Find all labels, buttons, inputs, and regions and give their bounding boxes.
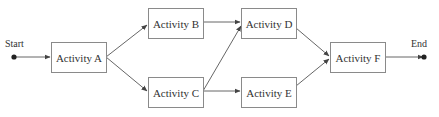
activity-b-label: Activity B xyxy=(153,18,199,30)
activity-d-node[interactable]: Activity D xyxy=(241,8,297,39)
activity-f-node[interactable]: Activity F xyxy=(330,42,386,73)
activity-e-label: Activity E xyxy=(246,87,292,99)
activity-b-node[interactable]: Activity B xyxy=(148,8,204,39)
end-node-dot xyxy=(421,54,426,59)
edge-e-f xyxy=(296,59,329,86)
start-label: Start xyxy=(5,38,24,49)
activity-c-node[interactable]: Activity C xyxy=(148,77,204,108)
edge-a-c xyxy=(106,57,147,91)
edge-c-d xyxy=(203,26,241,91)
activity-f-label: Activity F xyxy=(336,52,381,64)
end-label: End xyxy=(411,38,427,49)
activity-c-label: Activity C xyxy=(153,87,199,99)
edge-a-b xyxy=(106,25,147,57)
start-node-dot xyxy=(11,54,16,59)
activity-network-diagram: Start End Activity A Activity B Activity… xyxy=(0,0,439,117)
activity-a-node[interactable]: Activity A xyxy=(51,42,107,73)
edge-d-f xyxy=(296,28,329,56)
activity-a-label: Activity A xyxy=(56,52,102,64)
activity-e-node[interactable]: Activity E xyxy=(241,77,297,108)
activity-d-label: Activity D xyxy=(246,18,293,30)
